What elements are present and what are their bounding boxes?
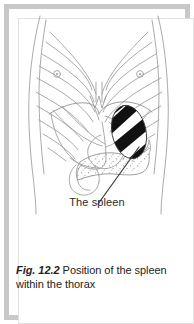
ribcage-left <box>36 32 96 161</box>
figure-root: The spleen Fig. 12.2 Position of the spl… <box>0 0 194 324</box>
figure-number: Fig. 12.2 <box>16 264 60 276</box>
figure-caption: Fig. 12.2 Position of the spleen within … <box>16 264 178 291</box>
sternum-xiphoid <box>90 82 106 120</box>
spleen-callout-label: The spleen <box>10 196 184 209</box>
anatomical-illustration <box>10 10 184 216</box>
